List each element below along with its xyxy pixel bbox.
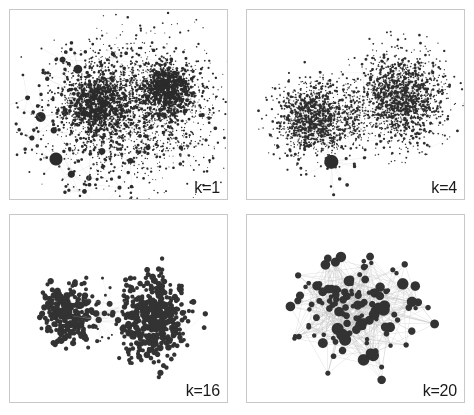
panel-k16[interactable]: k=16 <box>9 214 228 403</box>
network-canvas-k1 <box>10 10 228 200</box>
panel-label-k4: k=4 <box>431 179 457 197</box>
panel-k4[interactable]: k=4 <box>246 9 465 200</box>
panel-label-k20: k=20 <box>423 382 457 400</box>
network-canvas-k4 <box>247 10 465 200</box>
panel-k1[interactable]: k=1 <box>9 9 228 200</box>
panel-k20[interactable]: k=20 <box>246 214 465 403</box>
panel-label-k1: k=1 <box>194 179 220 197</box>
figure-root: k=1 k=4 k=16 k=20 <box>0 0 474 415</box>
network-canvas-k20 <box>247 215 465 403</box>
panel-grid: k=1 k=4 k=16 k=20 <box>9 9 465 403</box>
network-canvas-k16 <box>10 215 228 403</box>
panel-label-k16: k=16 <box>186 382 220 400</box>
